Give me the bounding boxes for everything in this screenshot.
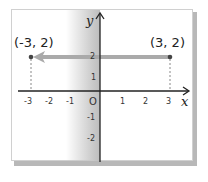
x-tick-2: 2 xyxy=(143,98,148,106)
x-axis-label: x xyxy=(181,95,188,108)
x-tick-1: 1 xyxy=(120,98,125,106)
x-tick-m3: -3 xyxy=(24,98,32,106)
point-b xyxy=(29,55,34,60)
origin-label: O xyxy=(89,97,97,107)
y-tick-m2: -2 xyxy=(87,135,95,143)
x-tick-m1: -1 xyxy=(66,98,74,106)
point-b-label: (-3, 2) xyxy=(14,36,54,49)
point-a xyxy=(168,55,173,60)
x-tick-3: 3 xyxy=(166,98,171,106)
coordinate-plane xyxy=(0,0,208,182)
y-tick-1: 1 xyxy=(91,74,96,82)
y-tick-2: 2 xyxy=(90,53,95,61)
y-tick-m1: -1 xyxy=(87,114,95,122)
point-a-label: (3, 2) xyxy=(150,36,185,49)
y-axis-label: y xyxy=(86,14,93,27)
x-tick-m2: -2 xyxy=(45,98,53,106)
